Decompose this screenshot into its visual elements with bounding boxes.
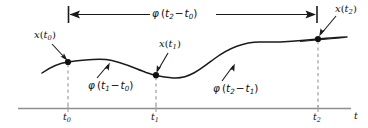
axis-tick-label-t1: t1 xyxy=(151,112,159,123)
label-x-t1: x(t1) xyxy=(159,39,181,51)
phi-glyph: φ xyxy=(213,82,220,94)
label-phi-t2-t1: φ(t2−t1) xyxy=(213,83,258,95)
leader-arrow-phi-t1-t0 xyxy=(97,63,110,78)
time-axis-group xyxy=(18,105,351,112)
paren-close: ) xyxy=(193,7,197,19)
phase-delay-diagram: φ(t2−t0) x(t0) x(t1) x(t2) φ(t1−t0) φ(t2… xyxy=(0,0,368,128)
phi-glyph: φ xyxy=(88,79,95,91)
sample-point-t2-dot xyxy=(315,36,321,42)
axis-label-t: t xyxy=(354,111,358,121)
axis-tick-label-t0: t0 xyxy=(63,112,71,123)
leader-arrow-phi-t2-t1 xyxy=(222,63,235,81)
label-x-t0: x(t0) xyxy=(34,30,56,42)
sample-point-t1-dot xyxy=(153,72,159,78)
paren-close: ) xyxy=(52,29,56,40)
subscript-0: 0 xyxy=(67,116,71,124)
phi-glyph: φ xyxy=(152,7,159,19)
signal-curve xyxy=(42,37,347,78)
minus-glyph: − xyxy=(174,7,185,19)
paren-close: ) xyxy=(129,79,133,91)
leader-arrow-x-t0 xyxy=(52,44,68,61)
minus-glyph: − xyxy=(110,79,121,91)
axis-tick-label-t2: t2 xyxy=(313,112,321,123)
leader-arrow-x-t1 xyxy=(156,53,168,73)
subscript-1: 1 xyxy=(155,116,159,124)
subscript-2: 2 xyxy=(317,116,321,124)
leader-arrowhead-phi-t2-t1 xyxy=(230,63,235,71)
label-x-t2: x(t2) xyxy=(335,4,357,16)
paren-close: ) xyxy=(353,3,357,14)
paren-close: ) xyxy=(254,82,258,94)
minus-glyph: − xyxy=(235,82,246,94)
leader-arrowhead-phi-t1-t0 xyxy=(104,63,110,71)
paren-close: ) xyxy=(177,38,181,49)
sample-point-t0-dot xyxy=(65,59,71,65)
label-phi-t2-t0: φ(t2−t0) xyxy=(152,8,197,20)
label-phi-t1-t0: φ(t1−t0) xyxy=(88,80,133,92)
leader-arrow-x-t2 xyxy=(319,16,336,37)
